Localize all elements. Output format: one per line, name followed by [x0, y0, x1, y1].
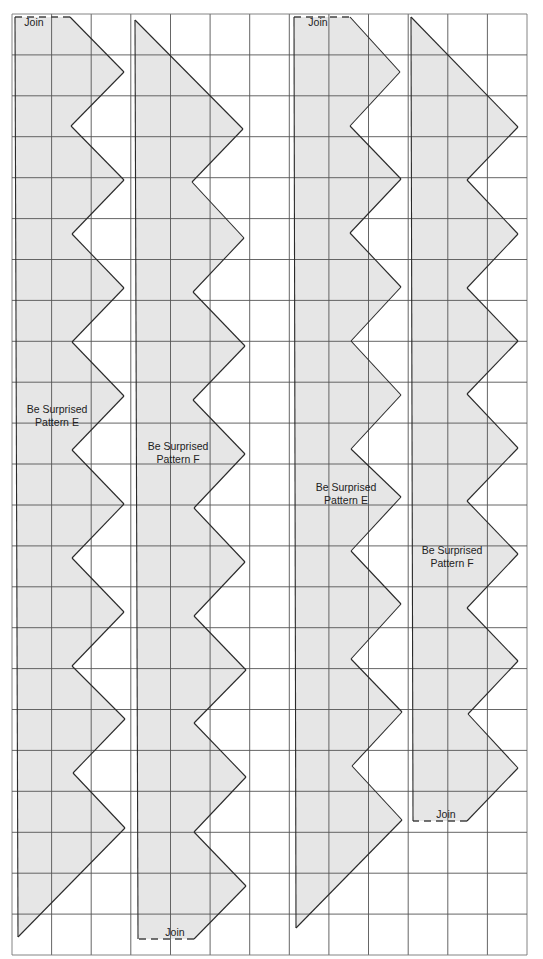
join-label: Join — [165, 926, 184, 938]
join-label: Join — [436, 808, 455, 820]
pattern-f-1-shape — [135, 20, 246, 939]
join-label: Join — [308, 16, 327, 28]
pattern-e-1-label: Be SurprisedPattern E — [27, 403, 88, 428]
pattern-e-1-shape — [15, 17, 125, 937]
pattern-f-2-shape — [411, 17, 518, 821]
pattern-f-2-label: Be SurprisedPattern F — [422, 544, 483, 569]
pattern-pieces-fill — [15, 17, 518, 939]
join-label: Join — [24, 16, 43, 28]
pattern-f-1-label: Be SurprisedPattern F — [148, 440, 209, 465]
pattern-sheet: Be SurprisedPattern EJoinBe SurprisedPat… — [0, 0, 543, 959]
pattern-e-2-label: Be SurprisedPattern E — [316, 481, 377, 506]
